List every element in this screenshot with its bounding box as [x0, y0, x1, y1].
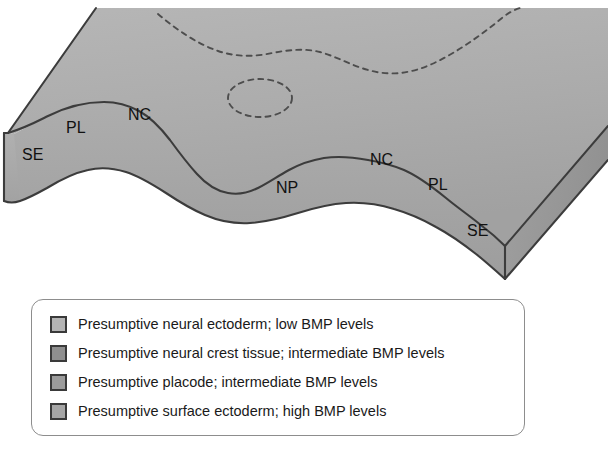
legend-label-placode: Presumptive placode; intermediate BMP le… — [78, 375, 378, 390]
ectoderm-sheet-3d-illustration: SE PL NC NP NC PL SE — [0, 0, 608, 290]
legend-item-placode: Presumptive placode; intermediate BMP le… — [50, 368, 516, 397]
legend-item-neural-ectoderm: Presumptive neural ectoderm; low BMP lev… — [50, 310, 516, 339]
region-label-se-left: SE — [22, 146, 43, 163]
region-label-se-right: SE — [467, 222, 488, 239]
embryo-ectoderm-figure: SE PL NC NP NC PL SE Presumptive neural … — [0, 0, 608, 464]
legend-item-surface-ectoderm: Presumptive surface ectoderm; high BMP l… — [50, 397, 516, 426]
legend-swatch-surface-ectoderm — [50, 403, 67, 420]
legend-list: Presumptive neural ectoderm; low BMP lev… — [50, 310, 516, 426]
region-label-pl-left: PL — [66, 119, 86, 136]
legend-item-neural-crest: Presumptive neural crest tissue; interme… — [50, 339, 516, 368]
legend-label-surface-ectoderm: Presumptive surface ectoderm; high BMP l… — [78, 404, 386, 419]
legend-swatch-neural-crest — [50, 345, 67, 362]
legend-panel: Presumptive neural ectoderm; low BMP lev… — [31, 299, 525, 436]
legend-label-neural-ectoderm: Presumptive neural ectoderm; low BMP lev… — [78, 317, 374, 332]
region-label-nc-left: NC — [128, 106, 151, 123]
region-label-pl-right: PL — [428, 176, 448, 193]
legend-swatch-placode — [50, 374, 67, 391]
region-label-nc-right: NC — [370, 151, 393, 168]
region-label-np: NP — [276, 179, 298, 196]
legend-swatch-neural-ectoderm — [50, 316, 67, 333]
legend-label-neural-crest: Presumptive neural crest tissue; interme… — [78, 346, 444, 361]
